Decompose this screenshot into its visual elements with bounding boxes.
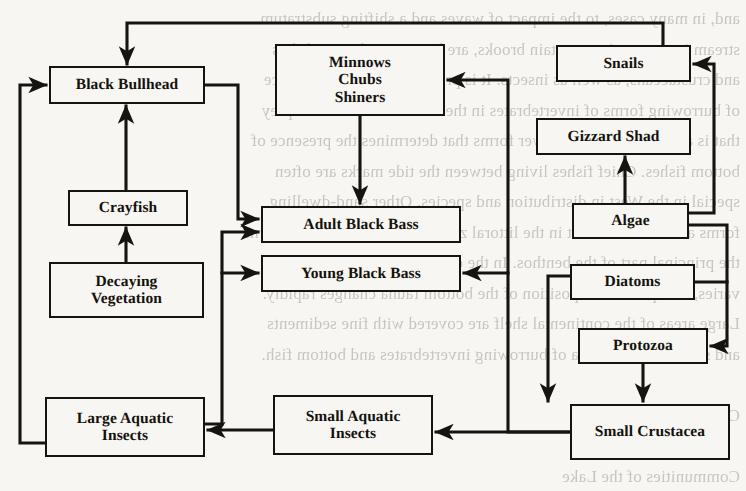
- node-label-protozoa: Protozoa: [613, 337, 673, 354]
- node-label-minnows-chubs-shiners: Minnows Chubs Shiners: [329, 54, 391, 106]
- node-algae[interactable]: Algae: [572, 203, 689, 239]
- node-diatoms[interactable]: Diatoms: [570, 264, 695, 300]
- node-protozoa[interactable]: Protozoa: [578, 328, 708, 364]
- node-label-crayfish: Crayfish: [99, 199, 158, 216]
- node-crayfish[interactable]: Crayfish: [68, 190, 188, 226]
- node-small-crustacea[interactable]: Small Crustacea: [570, 404, 730, 460]
- node-decaying-vegetation[interactable]: Decaying Vegetation: [49, 262, 204, 318]
- node-label-small-crustacea: Small Crustacea: [595, 423, 705, 440]
- node-small-aquatic-insects[interactable]: Small Aquatic Insects: [273, 395, 433, 455]
- food-web-diagram: and, in many cases, to the impact of wav…: [0, 0, 746, 491]
- node-label-black-bullhead: Black Bullhead: [76, 76, 179, 93]
- node-gizzard-shad[interactable]: Gizzard Shad: [536, 118, 691, 155]
- node-label-young-black-bass: Young Black Bass: [301, 265, 421, 282]
- node-adult-black-bass[interactable]: Adult Black Bass: [261, 206, 461, 243]
- node-label-algae: Algae: [611, 212, 649, 229]
- node-label-small-aquatic-insects: Small Aquatic Insects: [306, 408, 401, 443]
- node-layer: Black Bullhead Minnows Chubs Shiners Sna…: [0, 0, 746, 491]
- node-label-snails: Snails: [603, 55, 643, 72]
- node-label-gizzard-shad: Gizzard Shad: [567, 128, 659, 145]
- node-label-adult-black-bass: Adult Black Bass: [303, 216, 418, 233]
- node-label-decaying-vegetation: Decaying Vegetation: [91, 273, 162, 308]
- node-minnows-chubs-shiners[interactable]: Minnows Chubs Shiners: [275, 44, 445, 116]
- node-label-large-aquatic-insects: Large Aquatic Insects: [77, 410, 173, 445]
- node-large-aquatic-insects[interactable]: Large Aquatic Insects: [45, 397, 205, 457]
- node-snails[interactable]: Snails: [556, 45, 691, 82]
- node-label-diatoms: Diatoms: [605, 273, 661, 290]
- node-black-bullhead[interactable]: Black Bullhead: [49, 66, 205, 104]
- node-young-black-bass[interactable]: Young Black Bass: [261, 255, 461, 292]
